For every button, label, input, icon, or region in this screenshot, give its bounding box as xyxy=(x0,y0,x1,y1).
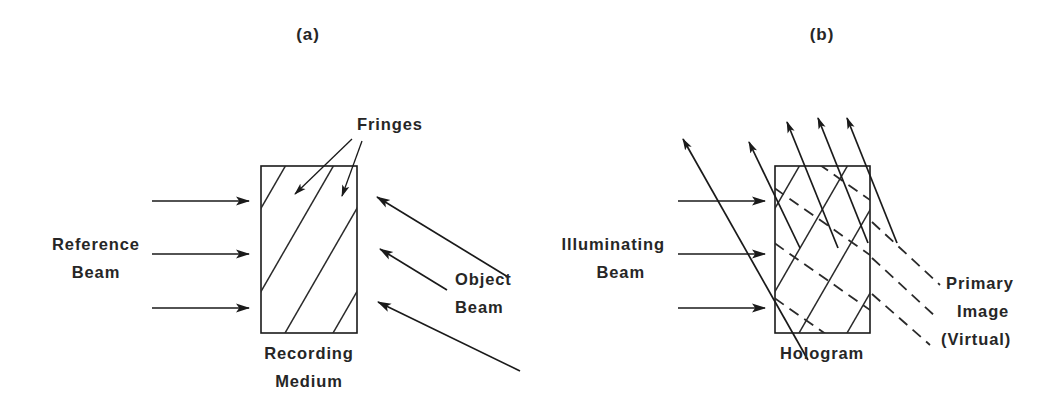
panel-b-group: (b) Illuminating Beam Hologram Primary I… xyxy=(562,25,1014,386)
illuminating-beam-label-line2: Beam xyxy=(596,263,645,281)
primary-image-label-line3: (Virtual) xyxy=(941,330,1011,348)
primary-image-dashed-rays xyxy=(872,222,940,345)
object-beam-label-line2: Beam xyxy=(455,298,504,316)
fringes-leader-arrows xyxy=(295,139,362,196)
reference-beam-label-line1: Reference xyxy=(52,235,140,253)
diffracted-ray-arrows xyxy=(749,118,897,248)
holography-figure: (a) Fringes Reference Beam Object Beam R… xyxy=(0,0,1052,410)
recording-medium-label-line2: Medium xyxy=(275,372,343,390)
diagram-canvas: (a) Fringes Reference Beam Object Beam R… xyxy=(0,0,1052,410)
primary-image-label-line1: Primary xyxy=(946,274,1014,292)
hologram-label: Hologram xyxy=(780,344,864,362)
transmitted-ray-arrow xyxy=(683,139,808,360)
reference-beam-arrows xyxy=(152,201,249,308)
illuminating-beam-label-line1: Illuminating xyxy=(562,235,665,253)
reference-beam-label-line2: Beam xyxy=(72,263,121,281)
primary-image-label-line2: Image xyxy=(957,302,1009,320)
panel-a-group: (a) Fringes Reference Beam Object Beam R… xyxy=(52,25,520,390)
panel-label-a: (a) xyxy=(296,25,319,44)
fringes-label: Fringes xyxy=(357,115,423,133)
recording-medium-rect xyxy=(261,166,357,333)
recording-medium-label-line1: Recording xyxy=(264,344,354,362)
panel-label-b: (b) xyxy=(810,25,834,44)
illuminating-beam-arrows xyxy=(678,201,765,308)
object-beam-label-line1: Object xyxy=(455,270,512,288)
